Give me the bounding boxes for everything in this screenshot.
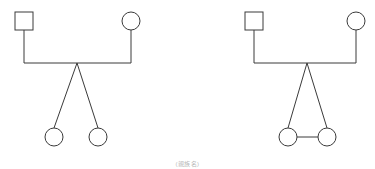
right-child-2-circle[interactable]	[318, 128, 336, 146]
left-father-square[interactable]	[15, 12, 33, 30]
kinship-diagram-svg	[0, 0, 375, 169]
right-sibling-line-2	[307, 63, 327, 128]
right-father-square[interactable]	[245, 12, 263, 30]
right-sibling-line-1	[288, 63, 307, 128]
left-child-2-circle[interactable]	[89, 128, 107, 146]
diagram-right	[245, 12, 365, 146]
right-child-1-circle[interactable]	[279, 128, 297, 146]
left-mother-circle[interactable]	[122, 12, 140, 30]
diagram-canvas: (親族名)	[0, 0, 375, 169]
right-mother-circle[interactable]	[347, 12, 365, 30]
left-sibling-line-2	[77, 63, 98, 128]
diagram-caption: (親族名)	[0, 160, 375, 168]
left-child-1-circle[interactable]	[45, 128, 63, 146]
left-sibling-line-1	[54, 63, 77, 128]
diagram-left	[15, 12, 140, 146]
